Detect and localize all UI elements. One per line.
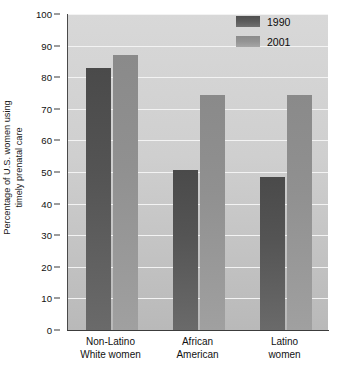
x-category-label-line2: women	[241, 349, 328, 362]
bar-1990-group-2	[173, 170, 198, 330]
y-tick-mark	[54, 330, 60, 331]
legend-swatch-1990-icon	[236, 16, 260, 27]
bar-2001-group-2	[200, 95, 225, 330]
y-tick-mark	[54, 14, 60, 15]
y-tick-mark	[54, 298, 60, 299]
y-axis-ticks: 0102030405060708090100	[26, 0, 60, 340]
legend-swatch-2001-icon	[236, 36, 260, 47]
x-category-label-line1: African	[154, 336, 241, 349]
x-category-label-line1: Latino	[241, 336, 328, 349]
x-category-label-line1: Non-Latino	[67, 336, 154, 349]
legend-label-2001: 2001	[267, 36, 290, 48]
y-tick-label: 60	[41, 135, 52, 146]
bar-1990-group-1	[86, 68, 111, 330]
x-category-label: Latinowomen	[241, 336, 328, 361]
y-tick-label: 40	[41, 198, 52, 209]
bar-1990-group-3	[260, 177, 285, 330]
legend-label-1990: 1990	[267, 16, 290, 28]
y-tick-mark	[54, 77, 60, 78]
y-tick-label: 30	[41, 230, 52, 241]
y-tick-label: 50	[41, 167, 52, 178]
x-axis-category-labels: Non-LatinoWhite womenAfricanAmericanLati…	[67, 336, 328, 370]
bar-chart: Percentage of U.S. women using timely pr…	[0, 0, 340, 375]
y-tick-mark	[54, 140, 60, 141]
y-tick-label: 80	[41, 72, 52, 83]
x-axis-line	[67, 330, 329, 331]
x-category-label-line2: White women	[67, 349, 154, 362]
y-axis-title-line1: Percentage of U.S. women using	[2, 100, 12, 234]
legend-item-2001: 2001	[236, 33, 322, 50]
y-tick-mark	[54, 45, 60, 46]
y-tick-label: 70	[41, 103, 52, 114]
y-tick-mark	[54, 235, 60, 236]
y-tick-mark	[54, 108, 60, 109]
y-axis-title: Percentage of U.S. women using timely pr…	[0, 0, 26, 335]
y-tick-label: 10	[41, 293, 52, 304]
x-category-label-line2: American	[154, 349, 241, 362]
legend-item-1990: 1990	[236, 13, 322, 30]
x-category-label: Non-LatinoWhite women	[67, 336, 154, 361]
y-tick-mark	[54, 266, 60, 267]
y-tick-label: 90	[41, 40, 52, 51]
plot-area	[67, 14, 328, 330]
legend: 1990 2001	[236, 13, 322, 53]
x-category-label: AfricanAmerican	[154, 336, 241, 361]
bar-2001-group-1	[113, 55, 138, 330]
y-tick-mark	[54, 172, 60, 173]
y-axis-title-line2: timely prenatal care	[13, 100, 25, 234]
y-tick-label: 100	[36, 9, 52, 20]
y-tick-label: 0	[47, 325, 52, 336]
bar-2001-group-3	[287, 95, 312, 330]
y-tick-mark	[54, 203, 60, 204]
y-tick-label: 20	[41, 261, 52, 272]
